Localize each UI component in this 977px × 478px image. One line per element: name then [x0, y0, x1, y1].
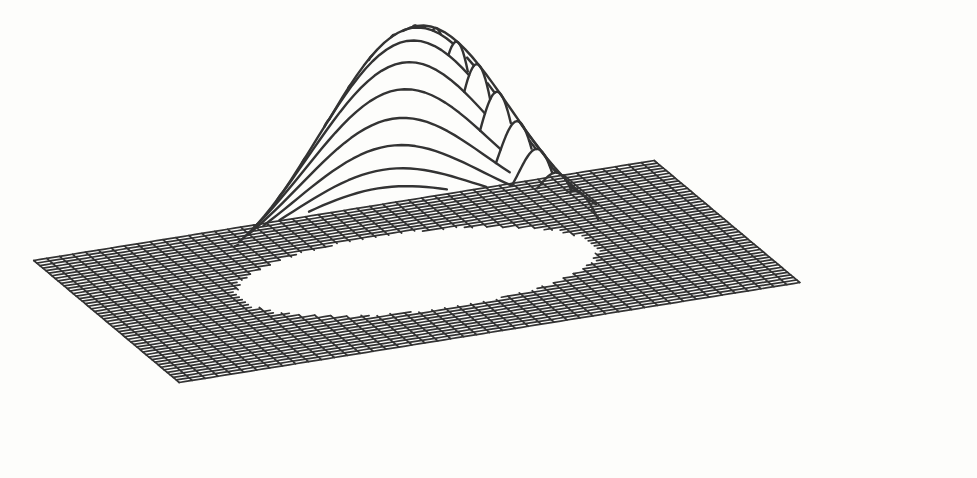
mesh-line	[235, 245, 238, 246]
mesh-line	[249, 231, 251, 233]
mesh-line	[414, 25, 417, 26]
figure-background	[0, 0, 977, 478]
surface-plot-canvas	[0, 0, 977, 478]
wireframe-surface-figure	[0, 0, 977, 478]
